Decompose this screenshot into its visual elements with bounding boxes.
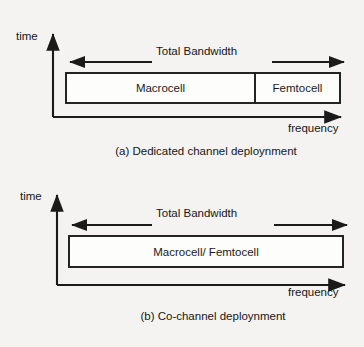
figure-panel-a: time Total Bandwidth Macrocell Femtocell… — [0, 0, 364, 175]
total-bandwidth-label: Total Bandwidth — [152, 207, 241, 219]
x-axis-label: frequency — [288, 286, 339, 298]
y-axis-label: time — [16, 30, 38, 42]
panel-b-caption: (b) Co-channel deploynment — [98, 310, 328, 322]
y-axis-label: time — [20, 190, 42, 202]
band-label-macrocell-femtocell: Macrocell/ Femtocell — [69, 246, 343, 258]
band-label-femtocell: Femtocell — [255, 82, 340, 94]
figure-panel-b: time Total Bandwidth Macrocell/ Femtocel… — [0, 175, 364, 347]
panel-a-caption: (a) Dedicated channel deploynment — [91, 145, 321, 157]
total-bandwidth-label: Total Bandwidth — [152, 45, 241, 57]
x-axis-label: frequency — [288, 122, 339, 134]
band-label-macrocell: Macrocell — [66, 82, 255, 94]
